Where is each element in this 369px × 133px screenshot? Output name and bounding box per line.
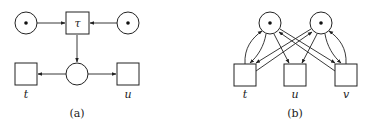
subfigure-a: τ t u (a) <box>15 12 139 120</box>
caption-b: (b) <box>287 107 303 120</box>
caption-a: (a) <box>69 107 84 120</box>
petri-net-figure: τ t u (a) t u v (b) <box>0 0 369 133</box>
transition-v-label: v <box>343 88 350 101</box>
transition-u <box>284 64 306 86</box>
transition-tau-label: τ <box>74 17 81 30</box>
token <box>24 21 28 25</box>
arc-p1-to-u <box>274 34 289 63</box>
transition-u <box>117 63 139 85</box>
transition-t-label: t <box>243 88 248 101</box>
arc-p2-to-t <box>256 29 311 63</box>
arc-p2-to-u <box>302 34 317 63</box>
transition-t-label: t <box>24 88 29 101</box>
transition-u-label: u <box>291 88 298 101</box>
transition-t <box>234 64 256 86</box>
transition-u-label: u <box>124 88 131 101</box>
arc-p1-to-v <box>280 29 335 63</box>
token <box>319 21 323 25</box>
token <box>126 21 130 25</box>
transition-t <box>15 63 37 85</box>
subfigure-b: t u v (b) <box>234 12 357 120</box>
token <box>268 21 272 25</box>
place-middle <box>66 63 88 85</box>
transition-v <box>335 64 357 86</box>
